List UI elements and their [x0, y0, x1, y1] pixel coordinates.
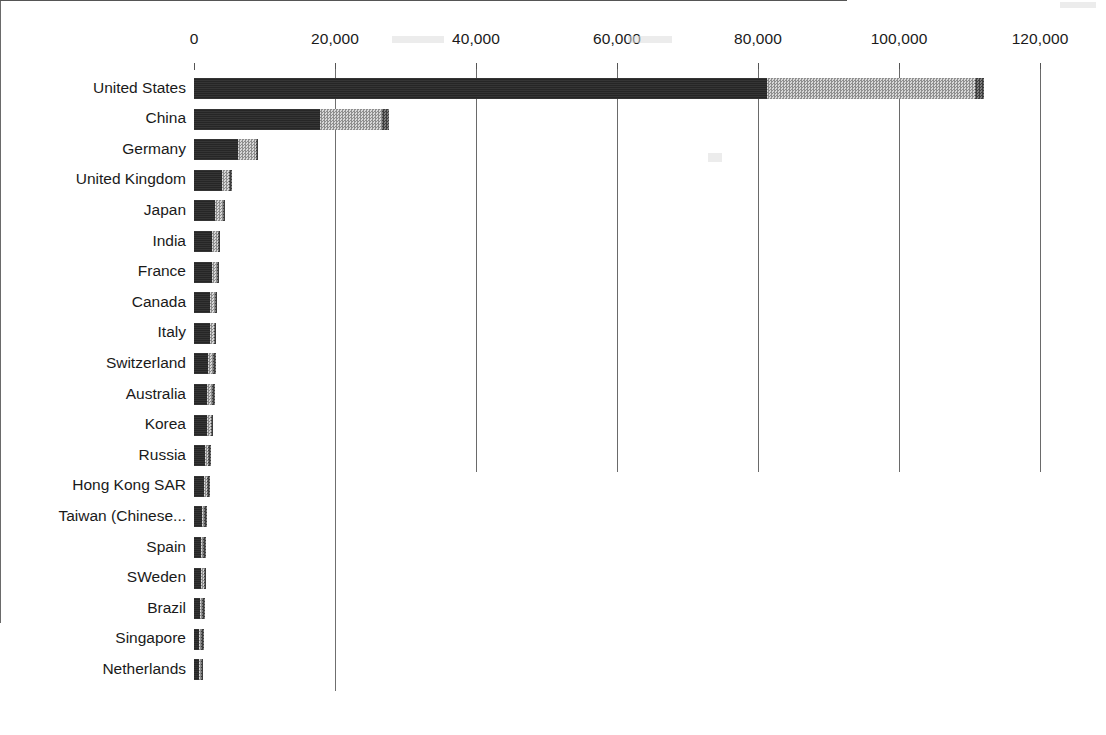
x-axis-tick	[194, 63, 195, 70]
bar-segment	[215, 200, 223, 221]
bar-segment	[194, 537, 201, 558]
bar-segment	[194, 568, 201, 589]
x-axis-tick-label: 0	[190, 30, 199, 48]
bar-segment	[201, 659, 204, 680]
bar-segment	[229, 170, 232, 191]
bar-segment	[194, 292, 210, 313]
category-label: Korea	[0, 415, 186, 433]
bar-segment	[223, 200, 226, 221]
bar-segment	[207, 476, 210, 497]
bar-segment	[194, 323, 210, 344]
scan-artifact	[708, 153, 722, 162]
category-label: Hong Kong SAR	[0, 476, 186, 494]
bar-segment	[194, 109, 320, 130]
bar-segment	[202, 598, 205, 619]
bar-row	[194, 323, 1040, 344]
bar-segment	[204, 568, 207, 589]
bar-segment	[214, 323, 217, 344]
bar-segment	[212, 384, 215, 405]
bar-row	[194, 506, 1040, 527]
bar-segment	[201, 629, 204, 650]
bar-segment	[217, 262, 220, 283]
category-label: United States	[0, 79, 186, 97]
category-label: Brazil	[0, 599, 186, 617]
bar-segment	[238, 139, 256, 160]
bar-segment	[194, 353, 208, 374]
bar-segment	[320, 109, 382, 130]
bar-row	[194, 170, 1040, 191]
bar-segment	[194, 170, 222, 191]
bar-row	[194, 109, 1040, 130]
bar-row	[194, 537, 1040, 558]
x-axis-line	[0, 0, 847, 1]
bar-segment	[194, 200, 215, 221]
bar-row	[194, 200, 1040, 221]
bar-segment	[222, 170, 229, 191]
bar-segment	[256, 139, 259, 160]
bar-segment	[194, 139, 238, 160]
scan-artifact	[392, 36, 444, 43]
bar-segment	[203, 537, 206, 558]
category-label: India	[0, 232, 186, 250]
category-label: Italy	[0, 323, 186, 341]
category-label: Germany	[0, 140, 186, 158]
bar-segment	[194, 506, 202, 527]
category-label: Australia	[0, 385, 186, 403]
bar-row	[194, 476, 1040, 497]
category-label: Japan	[0, 201, 186, 219]
bar-row	[194, 659, 1040, 680]
bar-row	[194, 262, 1040, 283]
bar-segment	[204, 506, 207, 527]
bar-row	[194, 292, 1040, 313]
x-axis-tick-label: 40,000	[452, 30, 500, 48]
bar-segment	[194, 384, 207, 405]
bar-segment	[194, 476, 204, 497]
category-label: Switzerland	[0, 354, 186, 372]
category-label: SWeden	[0, 568, 186, 586]
bar-segment	[213, 353, 216, 374]
bar-row	[194, 445, 1040, 466]
category-label: Singapore	[0, 629, 186, 647]
bar-row	[194, 139, 1040, 160]
bar-row	[194, 384, 1040, 405]
bar-segment	[208, 445, 211, 466]
category-label: China	[0, 109, 186, 127]
bar-row	[194, 231, 1040, 252]
bar-row	[194, 415, 1040, 436]
bar-segment	[975, 78, 983, 99]
x-axis-tick-label: 20,000	[311, 30, 359, 48]
bar-segment	[194, 445, 205, 466]
bar-segment	[382, 109, 388, 130]
scan-artifact	[628, 36, 672, 43]
scan-artifact	[1060, 2, 1096, 8]
bar-row	[194, 598, 1040, 619]
bar-segment	[218, 231, 221, 252]
x-axis-tick-label: 120,000	[1012, 30, 1069, 48]
bar-segment	[194, 415, 207, 436]
category-label: Canada	[0, 293, 186, 311]
bar-segment	[211, 415, 214, 436]
bar-segment	[194, 262, 212, 283]
bar-row	[194, 353, 1040, 374]
bar-row	[194, 629, 1040, 650]
bar-segment	[215, 292, 218, 313]
category-label: United Kingdom	[0, 170, 186, 188]
category-label: France	[0, 262, 186, 280]
category-label: Taiwan (Chinese...	[0, 507, 186, 525]
bar-row	[194, 78, 1040, 99]
bar-segment	[767, 78, 975, 99]
x-axis-tick-label: 80,000	[734, 30, 782, 48]
bar-row	[194, 568, 1040, 589]
chart-root: 020,00040,00060,00080,000100,000120,000 …	[0, 0, 1106, 735]
bar-segment	[194, 231, 212, 252]
category-label: Netherlands	[0, 660, 186, 678]
x-axis-gridline	[1040, 69, 1041, 472]
category-label: Russia	[0, 446, 186, 464]
bar-segment	[194, 78, 767, 99]
category-label: Spain	[0, 538, 186, 556]
x-axis-tick-label: 100,000	[871, 30, 928, 48]
